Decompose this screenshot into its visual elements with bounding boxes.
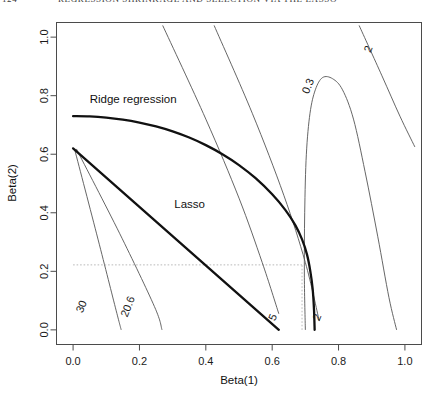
annotation-lasso: Lasso xyxy=(174,198,205,210)
x-tick-label: 0.8 xyxy=(331,355,346,367)
annotation-ridge-regression: Ridge regression xyxy=(90,93,177,105)
y-tick-label: 1.0 xyxy=(38,29,50,44)
figure-container: 124 REGRESSION SHRINKAGE AND SELECTION V… xyxy=(0,0,438,397)
x-tick-label: 0.6 xyxy=(265,355,280,367)
x-axis-title: Beta(1) xyxy=(220,374,258,386)
lasso-ridge-contour-plot: 3020.6520.32 Ridge regressionLasso 0.00.… xyxy=(0,0,438,397)
page-running-header: 124 REGRESSION SHRINKAGE AND SELECTION V… xyxy=(0,0,438,4)
y-tick-label: 0.4 xyxy=(38,205,50,220)
plot-background xyxy=(0,0,438,397)
y-tick-label: 0.6 xyxy=(38,147,50,162)
running-head-text: REGRESSION SHRINKAGE AND SELECTION VIA T… xyxy=(58,0,337,4)
x-tick-label: 0.0 xyxy=(65,355,80,367)
y-axis-title: Beta(2) xyxy=(6,164,18,202)
x-tick-label: 1.0 xyxy=(397,355,412,367)
y-tick-label: 0.8 xyxy=(38,88,50,103)
y-tick-label: 0.0 xyxy=(38,322,50,337)
y-tick-label: 0.2 xyxy=(38,264,50,279)
x-tick-label: 0.2 xyxy=(132,355,147,367)
page-folio: 124 xyxy=(2,0,17,4)
x-tick-label: 0.4 xyxy=(198,355,213,367)
